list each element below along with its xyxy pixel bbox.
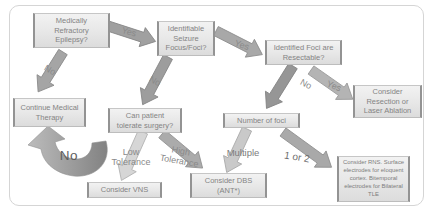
node-identified-foci-resectable: Identified Foci are Resectable? [265, 40, 342, 65]
node-number-of-foci: Number of foci [223, 113, 300, 128]
node-can-patient-tolerate-surgery: Can patient tolerate surgery? [108, 108, 182, 133]
arrow-no-resectable-to-foci-count [258, 61, 301, 114]
node-medically-refractory-epilepsy: Medically Refractory Epilepsy? [33, 13, 110, 48]
edge-label-low-tolerance: Low Tolerance [111, 147, 150, 167]
node-consider-rns: Consider RNS. Surface electrodes for elo… [337, 156, 410, 202]
edge-label-no-tolerate: No [60, 148, 78, 163]
node-consider-dbs-ant: Consider DBS (ANT*) [190, 173, 267, 198]
node-identifiable-seizure-focus: Identifiable Seizure Focus/Foci? [157, 21, 215, 56]
node-consider-resection-laser-ablation: Consider Resection or Laser Ablation [353, 85, 422, 118]
node-consider-vns: Consider VNS [87, 182, 162, 198]
epilepsy-treatment-flowchart: Medically Refractory Epilepsy? Identifia… [0, 0, 429, 213]
edge-label-multiple: Multiple [227, 148, 260, 159]
node-continue-medical-therapy: Continue Medical Therapy [13, 98, 86, 127]
